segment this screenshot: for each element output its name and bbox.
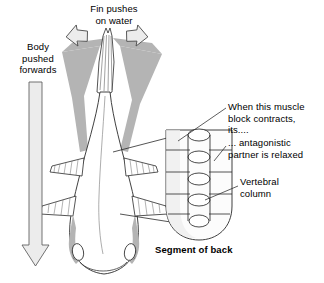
label-body-pushed-forwards: Body pushed forwards <box>6 41 70 76</box>
vertebra-3 <box>188 173 210 185</box>
vertebra-2 <box>188 151 210 163</box>
pectoral-fin-right <box>124 158 158 176</box>
vertebra-5 <box>189 215 209 227</box>
segment-of-back <box>166 129 232 240</box>
label-fin-pushes-on-water: Fin pushes on water <box>76 3 152 26</box>
body-shade-right <box>120 46 162 152</box>
label-muscle-block-contracts: When this muscle block contracts, its...… <box>228 101 324 136</box>
pelvic-fin-right <box>132 196 168 216</box>
label-vertebral-column: Vertebral column <box>240 176 316 199</box>
vertebra-1 <box>188 129 210 141</box>
label-antagonistic-partner-relaxed: ... antagonistic partner is relaxed <box>228 137 324 160</box>
body-forward-arrow <box>22 82 49 266</box>
pelvic-fin-left <box>40 196 76 216</box>
vertebra-4 <box>188 194 210 206</box>
label-segment-of-back: Segment of back <box>155 244 265 256</box>
pectoral-fin-left <box>50 158 84 176</box>
figure-canvas: Fin pushes on water Body pushed forwards… <box>0 0 324 283</box>
